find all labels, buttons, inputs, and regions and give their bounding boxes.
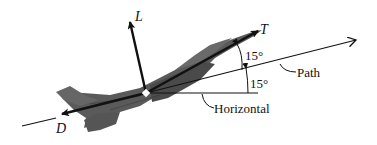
horizontal-label: Horizontal [214,102,270,115]
horizontal-leader [202,94,214,108]
angle-arc-thrust-path [237,44,242,70]
thrust-label: T [260,23,268,37]
path-line-back [22,118,56,126]
drag-label: D [56,122,66,136]
angle-path-horizontal-label: 15° [250,77,268,90]
path-leader [280,64,296,72]
lift-arrow [130,22,146,93]
angle-arc-path-horizontal [246,68,248,93]
lift-label: L [135,10,143,24]
angle-thrust-path-label: 15° [245,49,263,62]
path-label: Path [297,66,320,79]
thrust-arrow [146,31,258,93]
